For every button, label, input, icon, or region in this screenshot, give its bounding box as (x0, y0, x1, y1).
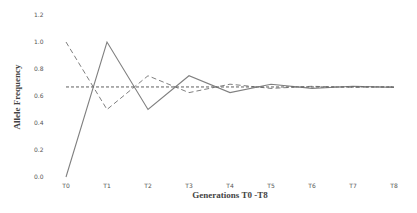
x-tick-label: T7 (348, 182, 357, 189)
y-tick-label: 1.2 (34, 11, 44, 18)
y-tick-label: 0.4 (34, 119, 44, 126)
y-axis-label: Allele Frequency (12, 64, 22, 130)
x-tick-label: T5 (266, 182, 275, 189)
y-axis-ticks: 0.00.20.40.60.81.01.2 (34, 11, 44, 180)
x-tick-label: T4 (225, 182, 234, 189)
x-tick-label: T0 (61, 182, 70, 189)
x-tick-label: T1 (102, 182, 111, 189)
x-tick-label: T6 (307, 182, 316, 189)
plot-lines (66, 42, 394, 177)
x-axis-label: Generations T0 -T8 (192, 190, 268, 200)
y-tick-label: 0.8 (34, 65, 44, 72)
y-tick-label: 0.2 (34, 146, 44, 153)
y-tick-label: 1.0 (34, 38, 44, 45)
x-tick-label: T8 (389, 182, 398, 189)
x-tick-label: T3 (184, 182, 193, 189)
allele-frequency-chart: 0.00.20.40.60.81.01.2 T0T1T2T3T4T5T6T7T8… (0, 0, 417, 213)
series-line-solid (66, 42, 394, 177)
y-tick-label: 0.0 (34, 173, 44, 180)
series-line-dashed (66, 42, 394, 110)
x-tick-label: T2 (143, 182, 152, 189)
x-axis-ticks: T0T1T2T3T4T5T6T7T8 (61, 182, 398, 189)
y-tick-label: 0.6 (34, 92, 44, 99)
